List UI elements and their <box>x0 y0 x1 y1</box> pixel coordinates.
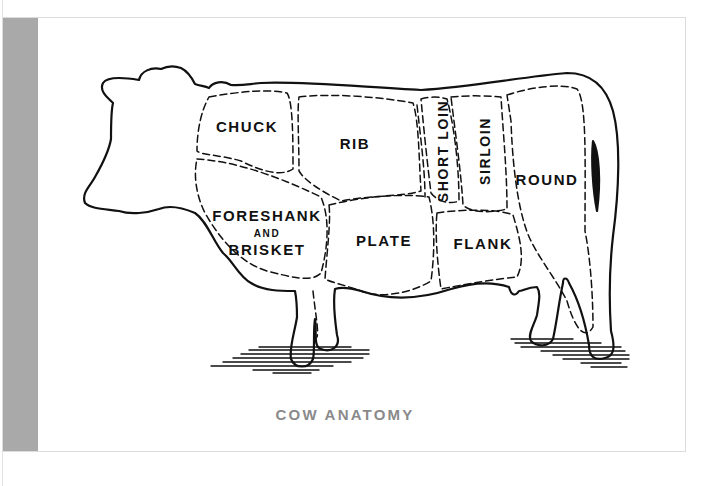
cow-outline <box>84 66 618 366</box>
label-rib: RIB <box>340 135 371 152</box>
label-short-loin: SHORT LOIN <box>435 100 451 202</box>
label-round: ROUND <box>516 171 579 188</box>
figure-caption: COW ANATOMY <box>3 406 687 423</box>
label-foreshank: FORESHANK <box>212 207 321 224</box>
tail <box>592 141 599 211</box>
label-chuck: CHUCK <box>216 118 278 135</box>
label-brisket: BRISKET <box>228 241 305 258</box>
label-plate: PLATE <box>356 232 412 249</box>
label-sirloin: SIRLOIN <box>477 117 493 185</box>
page: CHUCK RIB SHORT LOIN SIRLOIN ROUND FORES… <box>0 0 722 486</box>
cow-diagram: CHUCK RIB SHORT LOIN SIRLOIN ROUND FORES… <box>3 18 687 453</box>
label-flank: FLANK <box>454 235 513 252</box>
label-and: AND <box>254 228 280 239</box>
figure-card: CHUCK RIB SHORT LOIN SIRLOIN ROUND FORES… <box>2 17 686 452</box>
